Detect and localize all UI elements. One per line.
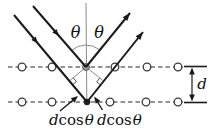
spacing-label: d xyxy=(197,75,207,93)
lattice-plane-top xyxy=(8,63,183,71)
incident-rays xyxy=(14,6,87,102)
pd-left-cos: cos xyxy=(59,111,84,129)
atom-circle xyxy=(18,63,26,71)
reflected-ray-bottom xyxy=(87,32,143,102)
diffraction-diagram: θ θ d dcosθ dcosθ xyxy=(0,0,219,130)
atom-circle xyxy=(18,98,26,106)
path-difference-label-left: dcosθ xyxy=(49,111,94,129)
pd-left-theta: θ xyxy=(85,111,94,129)
atom-circle xyxy=(143,63,151,71)
atom-circle xyxy=(48,98,56,106)
pd-right-cos: cos xyxy=(107,111,132,129)
theta-label-left: θ xyxy=(71,23,81,42)
dimension-arrow-down-icon xyxy=(189,95,195,102)
right-angle-mark-left xyxy=(73,78,77,85)
path-difference-annotations: dcosθ dcosθ xyxy=(49,94,142,129)
atom-circle xyxy=(142,98,150,106)
dimension-arrow-up-icon xyxy=(189,68,195,75)
atom-circle xyxy=(106,98,114,106)
spacing-dimension: d xyxy=(184,67,207,103)
atom-circle xyxy=(174,98,182,106)
pd-right-d: d xyxy=(97,111,107,129)
path-difference-label-right: dcosθ xyxy=(97,111,142,129)
surface-normal-line xyxy=(86,3,87,102)
atom-circle xyxy=(174,63,182,71)
right-angle-mark-right xyxy=(97,78,101,85)
angle-arc xyxy=(72,45,100,50)
reflected-ray-top xyxy=(86,13,130,67)
theta-label-right: θ xyxy=(94,23,104,42)
pd-right-theta: θ xyxy=(133,111,142,129)
pd-left-d: d xyxy=(49,111,59,129)
